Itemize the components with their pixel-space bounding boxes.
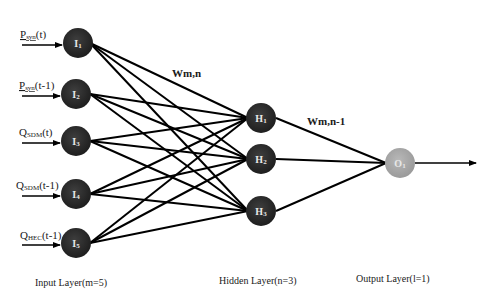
- input-layer-label: Input Layer(m=5): [35, 277, 107, 288]
- input-label-5: QHEC(t-1): [20, 229, 62, 242]
- input-layer-nodes: I1 I2 I3 I4 I5: [61, 28, 93, 258]
- hidden-output-edges: [276, 118, 386, 211]
- output-layer-label: Output Layer(l=1): [356, 273, 430, 284]
- hidden-layer-label: Hidden Layer(n=3): [219, 275, 297, 286]
- input-node-i5: I5: [61, 228, 91, 258]
- hidden-layer-nodes: H1 H2 H3: [246, 103, 276, 226]
- weight-label-hidden-output: Wm,n-1: [307, 115, 345, 127]
- input-node-i2: I2: [61, 79, 91, 109]
- weight-label-input-hidden: Wm,n: [172, 67, 201, 79]
- input-label-2: Psyn(t-1): [19, 79, 55, 92]
- input-label-4: QSDM(t-1): [16, 179, 59, 192]
- input-node-i1: I1: [63, 28, 93, 58]
- hidden-node-h3: H3: [246, 196, 276, 226]
- input-arrows: [22, 45, 62, 245]
- input-hidden-edges: [90, 43, 248, 243]
- hidden-node-h1: H1: [246, 103, 276, 133]
- input-variable-labels: Psyn(t) Psyn(t-1) QSDM(t) QSDM(t-1) QHEC…: [16, 28, 62, 242]
- neural-network-diagram: Psyn(t) Psyn(t-1) QSDM(t) QSDM(t-1) QHEC…: [0, 0, 486, 296]
- input-label-3: QSDM(t): [19, 126, 53, 139]
- input-node-i4: I4: [61, 179, 91, 209]
- input-node-i3: I3: [61, 126, 91, 156]
- input-label-1: Psyn(t): [20, 28, 47, 41]
- hidden-node-h2: H2: [246, 144, 276, 174]
- output-node-o1: O1: [385, 148, 415, 178]
